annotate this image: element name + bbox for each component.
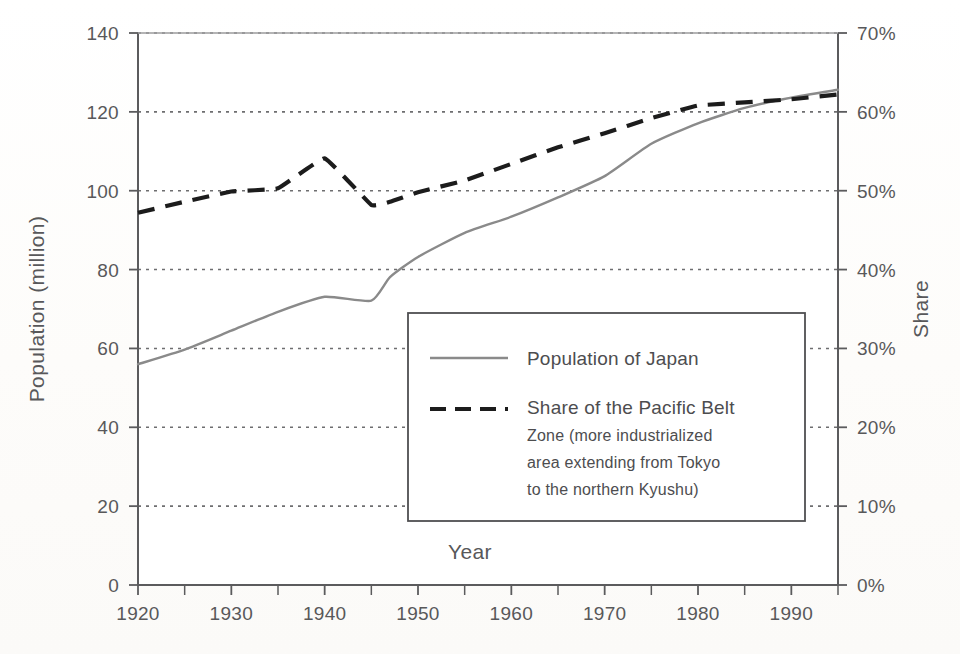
right-tick-label: 40% [857,260,896,281]
left-axis-ticks [129,33,138,585]
right-tick-label: 20% [857,417,896,438]
right-tick-label: 60% [857,102,896,123]
right-tick-label: 70% [857,23,896,44]
dual-axis-line-chart: 020406080100120140 0%10%20%30%40%50%60%7… [0,0,960,654]
right-tick-label: 30% [857,338,896,359]
x-axis-tick-labels: 19201930194019501960197019801990 [116,603,813,624]
x-tick-label: 1950 [396,603,439,624]
right-tick-label: 0% [857,575,885,596]
right-axis-title: Share [909,280,932,338]
x-tick-label: 1920 [116,603,159,624]
legend-label-share-line-3: area extending from Tokyo [527,454,720,471]
x-axis-ticks [138,585,838,595]
left-tick-label: 0 [108,575,119,596]
chart-figure: 020406080100120140 0%10%20%30%40%50%60%7… [0,0,960,654]
x-tick-label: 1990 [770,603,813,624]
chart-legend: Population of Japan Share of the Pacific… [408,313,805,521]
left-tick-label: 20 [97,496,119,517]
legend-label-population: Population of Japan [527,348,699,369]
legend-label-share-line-4: to the northern Kyushu) [527,481,699,498]
legend-label-share-line-2: Zone (more industrialized [527,427,713,444]
x-axis-title: Year [448,540,492,563]
legend-label-share-line-1: Share of the Pacific Belt [527,397,735,418]
x-tick-label: 1960 [490,603,533,624]
left-tick-label: 140 [86,23,119,44]
right-axis-ticks [838,33,847,585]
right-tick-label: 50% [857,181,896,202]
left-tick-label: 100 [86,181,119,202]
x-tick-label: 1930 [210,603,253,624]
left-axis-tick-labels: 020406080100120140 [86,23,119,596]
left-axis-title: Population (million) [25,216,48,403]
right-tick-label: 10% [857,496,896,517]
left-tick-label: 120 [86,102,119,123]
left-tick-label: 60 [97,338,119,359]
x-tick-label: 1940 [303,603,346,624]
x-tick-label: 1970 [583,603,626,624]
right-axis-tick-labels: 0%10%20%30%40%50%60%70% [857,23,896,596]
left-tick-label: 40 [97,417,119,438]
left-tick-label: 80 [97,260,119,281]
x-tick-label: 1980 [676,603,719,624]
